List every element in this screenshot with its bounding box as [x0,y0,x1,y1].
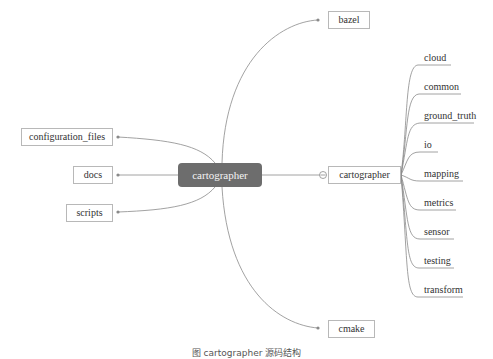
connector-dot [316,18,319,21]
link-scripts [118,187,215,212]
figure-caption: 图 cartographer 源码结构 [0,346,493,359]
root-node[interactable]: cartographer [178,163,262,187]
leaf-transform[interactable]: transform [424,284,463,296]
leaf-cloud[interactable]: cloud [424,52,446,64]
leaf-testing[interactable]: testing [424,255,451,267]
leaf-sensor[interactable]: sensor [424,226,450,238]
connector-dot [116,135,119,138]
leaf-mapping[interactable]: mapping [424,168,459,180]
link-bazel [222,20,318,163]
leaf-ground-truth[interactable]: ground_truth [424,110,476,122]
node-docs[interactable]: docs [73,166,113,184]
node-configuration-files[interactable]: configuration_files [21,128,113,146]
node-scripts[interactable]: scripts [66,204,113,222]
link-configuration-files [118,137,215,163]
node-bazel[interactable]: bazel [328,11,370,29]
node-cartographer[interactable]: cartographer [328,166,401,184]
link-cmake [222,187,318,328]
leaf-common[interactable]: common [424,81,459,93]
leaf-metrics[interactable]: metrics [424,197,453,209]
link-common [401,94,461,175]
node-cmake[interactable]: cmake [328,320,375,338]
connector-dot [316,326,319,329]
connector-dot [116,210,119,213]
leaf-io[interactable]: io [424,139,432,151]
connector-dot [116,173,119,176]
